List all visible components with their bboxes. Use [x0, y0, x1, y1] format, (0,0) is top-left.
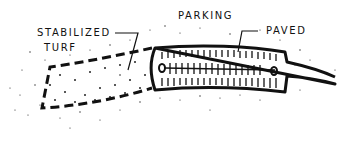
paved-label: PAVED: [266, 26, 306, 36]
diagram-drawing: [0, 0, 347, 142]
stabilized-label: STABILIZED: [37, 28, 111, 38]
parking-diagram: PARKING STABILIZED TURF PAVED: [0, 0, 347, 142]
island-end-left: [159, 64, 165, 72]
parking-label: PARKING: [178, 11, 233, 21]
turf-label: TURF: [44, 43, 77, 53]
parking-stall-marks: [162, 50, 276, 88]
stabilized-turf-outline: [42, 48, 152, 108]
